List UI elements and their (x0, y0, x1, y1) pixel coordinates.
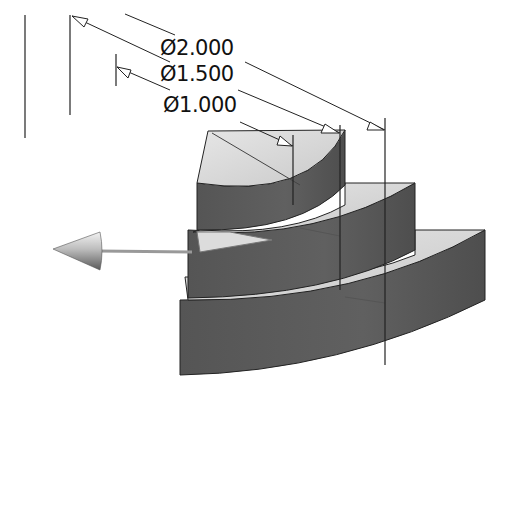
cad-drawing-canvas: Ø2.000 Ø1.500 Ø1.000 (0, 0, 505, 532)
dimension-label-1500: Ø1.500 (160, 64, 234, 85)
arrowhead-1500-right (321, 124, 339, 133)
dimension-label-1000: Ø1.000 (163, 95, 237, 116)
axis-cone (53, 232, 102, 270)
arrowhead-2000-left (72, 16, 88, 27)
axis-shaft (98, 251, 192, 252)
drawing-svg (0, 0, 505, 532)
dimension-label-2000: Ø2.000 (160, 38, 234, 59)
arrowhead-1500-left (117, 67, 131, 78)
axis-arrow-icon (53, 232, 192, 270)
arrowhead-2000-right (367, 122, 384, 130)
